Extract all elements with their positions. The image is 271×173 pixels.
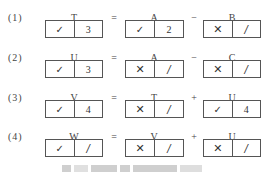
row-number: (4) (8, 131, 23, 142)
operator: + (187, 92, 201, 103)
caption-text-fragment (133, 165, 177, 172)
operator: − (187, 12, 201, 23)
lhs-value: 4 (75, 101, 103, 117)
operand-a-box: ✕ / (125, 60, 184, 78)
check-icon: ✓ (204, 101, 233, 117)
equation-row-2: (2) U = A − C ✓ 3 ✕ / ✕ / (0, 52, 271, 90)
caption-text-fragment (62, 165, 71, 172)
operand-b-value: / (233, 140, 261, 156)
equation-row-1: (1) T = A − B ✓ 3 ✓ 2 ✕ / (0, 12, 271, 50)
lhs-box: ✓ 3 (45, 60, 103, 78)
lhs-value: 3 (75, 21, 103, 37)
caption-text-fragment (180, 165, 202, 172)
operand-a-box: ✓ 2 (125, 20, 184, 38)
check-icon: ✓ (46, 61, 75, 77)
operand-b-box: ✕ / (203, 60, 261, 78)
equals-sign: = (107, 92, 121, 103)
caption-text-fragment (120, 165, 130, 172)
lhs-box: ✓ / (45, 139, 103, 157)
operand-b-value: / (233, 61, 261, 77)
operand-a-box: ✕ / (125, 139, 184, 157)
equals-sign: = (107, 12, 121, 23)
check-icon: ✓ (46, 140, 75, 156)
equation-row-3: (3) V = T + U ✓ 4 ✕ / ✓ 4 (0, 92, 271, 130)
lhs-value: 3 (75, 61, 103, 77)
cross-icon: ✕ (126, 101, 155, 117)
check-icon: ✓ (46, 101, 75, 117)
operand-b-box: ✕ / (203, 20, 261, 38)
operand-a-value: 2 (155, 21, 183, 37)
operand-a-box: ✕ / (125, 100, 184, 118)
check-icon: ✓ (126, 21, 155, 37)
operand-a-value: / (155, 61, 183, 77)
operand-b-value: 4 (233, 101, 261, 117)
cross-icon: ✕ (126, 140, 155, 156)
operand-a-value: / (155, 140, 183, 156)
operator: + (187, 131, 201, 142)
caption-text-fragment (91, 165, 117, 172)
lhs-box: ✓ 3 (45, 20, 103, 38)
lhs-box: ✓ 4 (45, 100, 103, 118)
row-number: (2) (8, 52, 23, 63)
operand-a-value: / (155, 101, 183, 117)
lhs-value: / (75, 140, 103, 156)
equals-sign: = (107, 131, 121, 142)
operand-b-box: ✓ 4 (203, 100, 261, 118)
check-icon: ✓ (46, 21, 75, 37)
cross-icon: ✕ (126, 61, 155, 77)
operator: − (187, 52, 201, 63)
row-number: (3) (8, 92, 23, 103)
cross-icon: ✕ (204, 21, 233, 37)
operand-b-box: ✕ / (203, 139, 261, 157)
caption-text-fragment (74, 165, 88, 172)
row-number: (1) (8, 12, 23, 23)
equals-sign: = (107, 52, 121, 63)
cross-icon: ✕ (204, 140, 233, 156)
figure-caption (62, 164, 212, 173)
operand-b-value: / (233, 21, 261, 37)
cross-icon: ✕ (204, 61, 233, 77)
